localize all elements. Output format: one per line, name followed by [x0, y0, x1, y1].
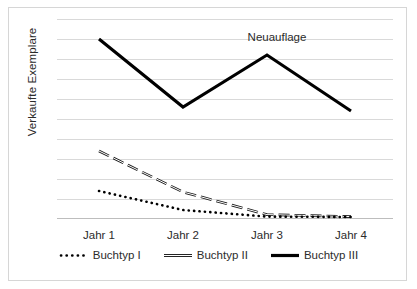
x-tick-label-jahr-4: Jahr 4 [309, 224, 393, 246]
x-tick-label-jahr-3: Jahr 3 [225, 224, 309, 246]
dashed-line-icon [163, 250, 193, 261]
plot-area: Neuauflage [57, 19, 393, 219]
series-line-buchtyp-iii [99, 39, 351, 111]
series-plot [57, 19, 393, 219]
y-axis-title: Verkaufte Exemplare [26, 7, 38, 157]
legend-label-buchtyp-iii: Buchtyp III [304, 249, 358, 261]
dotted-line-icon [59, 250, 89, 261]
legend-label-buchtyp-i: Buchtyp I [93, 249, 141, 261]
chart-legend: Buchtyp I Buchtyp II Buchtyp III [9, 249, 408, 261]
x-tick-label-jahr-2: Jahr 2 [141, 224, 225, 246]
annotation-neuauflage: Neuauflage [217, 31, 337, 43]
legend-item-buchtyp-i: Buchtyp I [59, 249, 141, 261]
solid-line-icon [270, 250, 300, 261]
chart-frame: Verkaufte Exemplare Neuauflage Jahr 1 Ja… [8, 7, 407, 281]
x-axis-labels: Jahr 1 Jahr 2 Jahr 3 Jahr 4 [57, 224, 393, 246]
series-line-buchtyp-ii-inner [99, 151, 351, 217]
x-tick-label-jahr-1: Jahr 1 [57, 224, 141, 246]
legend-item-buchtyp-iii: Buchtyp III [270, 249, 358, 261]
series-line-buchtyp-ii [99, 151, 351, 217]
legend-label-buchtyp-ii: Buchtyp II [197, 249, 248, 261]
legend-item-buchtyp-ii: Buchtyp II [163, 249, 248, 261]
